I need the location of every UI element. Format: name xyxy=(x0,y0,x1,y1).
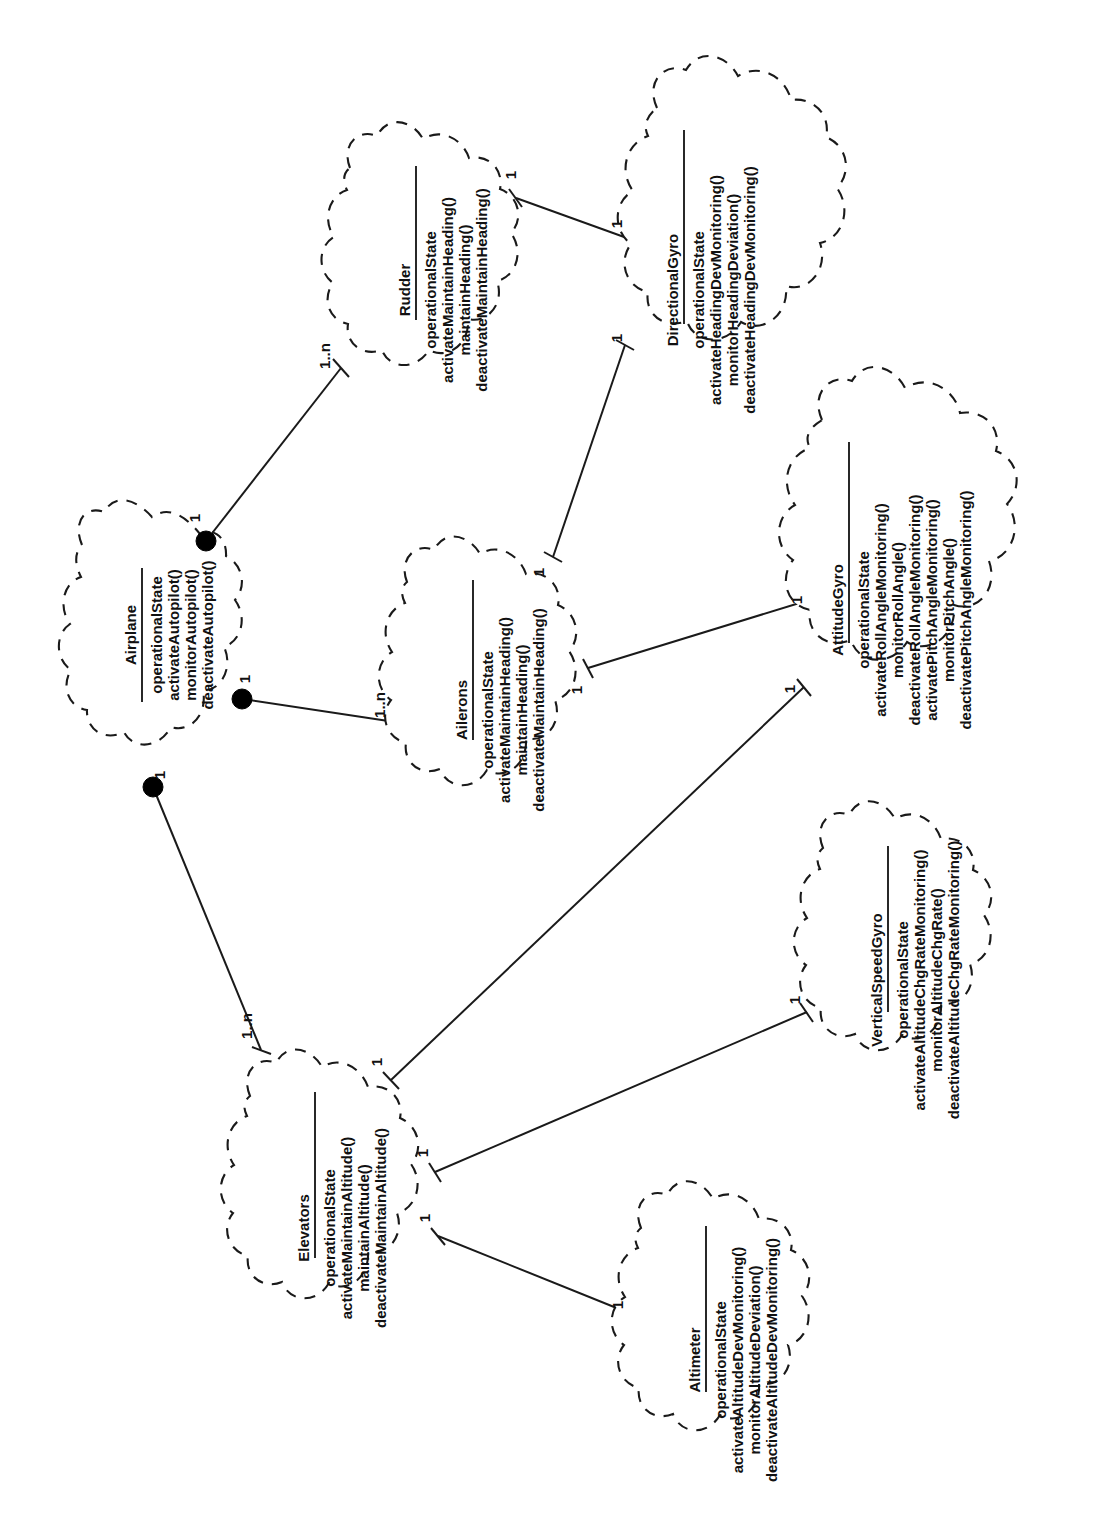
class-node-rudder[interactable]: Rudder operationalState activateMaintain… xyxy=(321,122,518,392)
mult-airplane-elevators-to: 1..n xyxy=(238,1013,255,1039)
altimeter-member-3: deactivateAltitudeDevMonitoring() xyxy=(763,1238,780,1482)
verticalspeedgyro-class-name: VerticalSpeedGyro xyxy=(868,913,885,1046)
elevators-member-0: operationalState xyxy=(321,1169,338,1287)
tick-elevators-d xyxy=(431,1228,445,1245)
line-airplane-elevators xyxy=(153,787,261,1050)
verticalspeedgyro-member-2: monitorAltitudeChgRate() xyxy=(928,888,945,1071)
altimeter-member-1: activateAltitudeDevMonitoring() xyxy=(729,1247,746,1474)
attitudegyro-class-name: AttitudeGyro xyxy=(829,564,846,656)
mult-rudder-dgyro-to: 1 xyxy=(608,220,625,228)
airplane-member-3: deactivateAutopilot() xyxy=(199,560,216,709)
elevators-member-2: maintainAltitude() xyxy=(355,1164,372,1292)
mult-airplane-ailerons-to: 1..n xyxy=(371,692,388,718)
tick-elevators-c xyxy=(429,1163,441,1182)
ailerons-member-1: activateMaintainHeading() xyxy=(496,617,513,803)
elevators-member-1: activateMaintainAltitude() xyxy=(338,1137,355,1320)
attitudegyro-member-0: operationalState xyxy=(855,551,872,669)
tick-agyro-b xyxy=(797,679,811,696)
mult-ailerons-dgyro-to: 1 xyxy=(608,334,625,342)
class-node-attitudegyro[interactable]: AttitudeGyro operationalState activateRo… xyxy=(779,367,1017,730)
line-elevators-vspeedgyro xyxy=(435,1012,807,1172)
ailerons-member-3: deactivateMaintainHeading() xyxy=(530,608,547,811)
mult-elevators-altimeter-from: 1 xyxy=(416,1214,433,1222)
class-node-directionalgyro[interactable]: DirectionalGyro operationalState activat… xyxy=(618,56,846,414)
ailerons-member-2: maintainHeading() xyxy=(513,645,530,776)
rudder-member-1: activateMaintainHeading() xyxy=(439,197,456,383)
line-ailerons-directionalgyro xyxy=(553,345,625,557)
class-node-elevators[interactable]: Elevators operationalState activateMaint… xyxy=(221,1050,419,1328)
attitudegyro-member-6: deactivatePitchAngleMonitoring() xyxy=(957,490,974,729)
directionalgyro-member-3: deactivateHeadingDevMonitoring() xyxy=(741,166,758,414)
airplane-member-0: operationalState xyxy=(148,576,165,694)
rudder-class-name: Rudder xyxy=(396,264,413,317)
directionalgyro-member-0: operationalState xyxy=(690,231,707,349)
rudder-member-3: deactivateMaintainHeading() xyxy=(473,188,490,391)
tick-elevators-a xyxy=(252,1047,271,1054)
ailerons-member-0: operationalState xyxy=(479,651,496,769)
attitudegyro-member-2: monitorRollAngle() xyxy=(889,542,906,678)
mult-airplane-rudder-to: 1..n xyxy=(316,343,333,369)
verticalspeedgyro-member-3: deactivateAltitudeChgRateMonitoring() xyxy=(945,841,962,1119)
mult-ailerons-agyro-to: 1 xyxy=(788,596,805,604)
attitudegyro-member-4: activatePitchAngleMonitoring() xyxy=(923,499,940,721)
composition-marker-ailerons xyxy=(232,689,252,709)
attitudegyro-member-3: deactivateRollAngleMonitoring() xyxy=(906,495,923,726)
mult-elevators-vgyro-from: 1 xyxy=(414,1149,431,1157)
attitudegyro-member-5: monitorPitchAngle() xyxy=(940,538,957,682)
altimeter-member-2: monitorAltitudeDeviation() xyxy=(746,1265,763,1454)
class-node-verticalspeedgyro[interactable]: VerticalSpeedGyro operationalState activ… xyxy=(794,801,992,1119)
mult-ailerons-agyro-from: 1 xyxy=(568,686,585,694)
elevators-member-3: deactivateMaintainAltitude() xyxy=(372,1128,389,1328)
class-node-altimeter[interactable]: Altimeter operationalState activateAltit… xyxy=(612,1181,810,1482)
elevators-class-name: Elevators xyxy=(295,1194,312,1262)
mult-airplane-elevators-from: 1 xyxy=(151,771,168,779)
rudder-member-2: maintainHeading() xyxy=(456,225,473,356)
tick-vgyro-a xyxy=(800,1003,813,1022)
altimeter-class-name: Altimeter xyxy=(686,1327,703,1392)
attitudegyro-member-1: activateRollAngleMonitoring() xyxy=(872,503,889,716)
tick-ailerons-c xyxy=(583,659,593,678)
rudder-member-0: operationalState xyxy=(422,231,439,349)
mult-elevators-agyro-to: 1 xyxy=(781,685,798,693)
uml-diagram-canvas: Airplane operationalState activateAutopi… xyxy=(0,0,1106,1532)
airplane-class-name: Airplane xyxy=(122,605,139,665)
composition-marker-rudder xyxy=(196,531,216,551)
airplane-member-2: monitorAutopilot() xyxy=(182,569,199,701)
directionalgyro-member-2: monitorHeadingDeviation() xyxy=(724,194,741,387)
line-elevators-altimeter xyxy=(438,1236,629,1313)
tick-ailerons-b xyxy=(544,552,562,562)
altimeter-member-0: operationalState xyxy=(712,1301,729,1419)
airplane-member-1: activateAutopilot() xyxy=(165,569,182,701)
class-node-ailerons[interactable]: Ailerons operationalState activateMainta… xyxy=(379,537,577,812)
mult-elevators-vgyro-to: 1 xyxy=(786,996,803,1004)
directionalgyro-class-name: DirectionalGyro xyxy=(664,234,681,347)
mult-airplane-ailerons-from: 1 xyxy=(236,675,253,683)
mult-airplane-rudder-from: 1 xyxy=(186,514,203,522)
mult-elevators-agyro-from: 1 xyxy=(368,1058,385,1066)
line-airplane-rudder xyxy=(206,368,341,541)
verticalspeedgyro-member-1: activateAltitudeChgRateMonitoring() xyxy=(911,850,928,1111)
mult-ailerons-dgyro-from: 1 xyxy=(530,568,547,576)
ailerons-class-name: Ailerons xyxy=(453,680,470,740)
line-ailerons-attitudegyro xyxy=(588,601,806,668)
directionalgyro-member-1: activateHeadingDevMonitoring() xyxy=(707,175,724,405)
mult-elevators-altimeter-to: 1 xyxy=(609,1301,626,1309)
uml-diagram-svg: Airplane operationalState activateAutopi… xyxy=(0,0,1106,1532)
verticalspeedgyro-member-0: operationalState xyxy=(894,921,911,1039)
mult-rudder-dgyro-from: 1 xyxy=(502,171,519,179)
